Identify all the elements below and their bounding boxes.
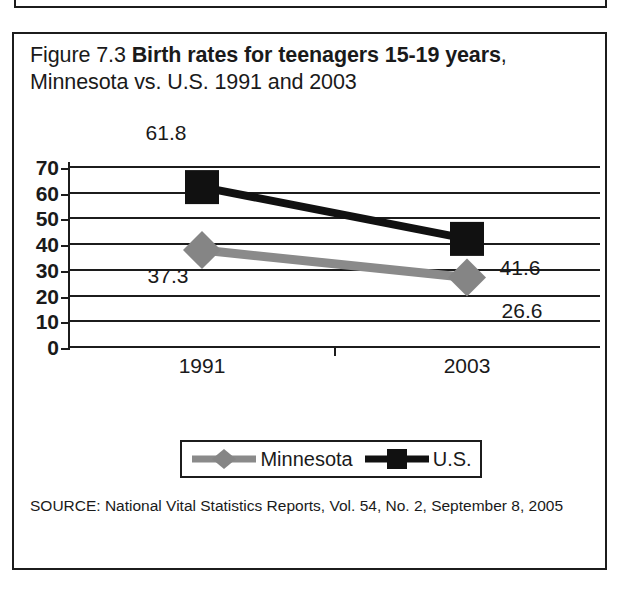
y-tick-label-60: 60 (36, 182, 59, 206)
figure-title-bold: Birth rates for teenagers 15-19 years (132, 43, 501, 67)
legend-label-minnesota: Minnesota (260, 449, 352, 469)
minnesota-marker-2003 (448, 259, 486, 297)
y-tick-label-10: 10 (36, 310, 59, 334)
partial-frame-above (14, 0, 607, 8)
chart-legend: Minnesota U.S. (180, 440, 482, 478)
y-tick-label-20: 20 (36, 285, 59, 309)
y-tick-label-70: 70 (36, 156, 59, 180)
chart-plot-area: 70 60 50 40 30 20 10 0 1991 2003 (14, 118, 605, 448)
us-marker-2003 (450, 222, 484, 256)
us-line (202, 187, 467, 239)
y-tick-label-0: 0 (47, 336, 59, 360)
chart-axes: 70 60 50 40 30 20 10 0 1991 2003 (68, 166, 600, 346)
legend-item-minnesota[interactable]: Minnesota (190, 447, 352, 471)
y-tick-label-30: 30 (36, 259, 59, 283)
figure-title: Figure 7.3 Birth rates for teenagers 15-… (30, 42, 586, 96)
legend-label-us: U.S. (433, 449, 472, 469)
legend-item-us[interactable]: U.S. (363, 447, 472, 471)
data-label-us-1991: 61.8 (146, 121, 187, 145)
y-tick-label-40: 40 (36, 233, 59, 257)
us-legend-swatch (363, 447, 431, 471)
data-label-minnesota-1991: 37.3 (148, 264, 189, 288)
minnesota-legend-swatch (190, 447, 258, 471)
us-marker-1991 (185, 170, 219, 204)
minnesota-marker-1991 (183, 231, 221, 269)
data-label-us-2003: 41.6 (500, 256, 541, 280)
source-note: SOURCE: National Vital Statistics Report… (30, 496, 590, 516)
data-label-minnesota-2003: 26.6 (502, 299, 543, 323)
y-tick-label-50: 50 (36, 207, 59, 231)
minnesota-line (202, 250, 467, 278)
figure-container: Figure 7.3 Birth rates for teenagers 15-… (12, 32, 607, 570)
figure-title-prefix: Figure 7.3 (30, 43, 132, 67)
